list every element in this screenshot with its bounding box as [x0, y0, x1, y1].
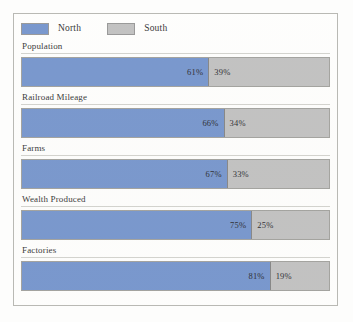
- bar-value-south: 33%: [233, 169, 249, 179]
- bar-segment-south: 34%: [225, 109, 329, 137]
- bar-value-south: 25%: [257, 220, 273, 230]
- bar-row: Population 61% 39%: [21, 40, 330, 87]
- chart-container: North South Population 61% 39% Railroad …: [13, 13, 338, 306]
- bar-value-south: 39%: [214, 67, 230, 77]
- bar-track: 61% 39%: [21, 57, 330, 87]
- bar-track: 67% 33%: [21, 159, 330, 189]
- legend-swatch-south: [107, 23, 135, 35]
- bar-segment-south: 39%: [209, 58, 329, 86]
- bar-row: Farms 67% 33%: [21, 142, 330, 189]
- bar-segment-south: 25%: [252, 211, 329, 239]
- bar-track: 75% 25%: [21, 210, 330, 240]
- bar-row-label: Wealth Produced: [21, 193, 330, 207]
- bar-value-north: 61%: [187, 67, 203, 77]
- legend-label-south: South: [144, 24, 167, 34]
- bar-value-north: 75%: [230, 220, 246, 230]
- bar-row-label: Railroad Mileage: [21, 91, 330, 105]
- bar-value-north: 67%: [206, 169, 222, 179]
- legend-swatch-north: [21, 23, 49, 35]
- bar-segment-south: 19%: [271, 262, 329, 290]
- bar-segment-north: 66%: [22, 109, 225, 137]
- legend-item-north: North: [21, 23, 81, 35]
- bar-segment-south: 33%: [228, 160, 329, 188]
- bar-row: Railroad Mileage 66% 34%: [21, 91, 330, 138]
- bar-value-south: 34%: [230, 118, 246, 128]
- bar-segment-north: 67%: [22, 160, 228, 188]
- bar-track: 66% 34%: [21, 108, 330, 138]
- bar-segment-north: 61%: [22, 58, 209, 86]
- bar-row: Wealth Produced 75% 25%: [21, 193, 330, 240]
- bar-value-north: 66%: [202, 118, 218, 128]
- bar-value-north: 81%: [248, 271, 264, 281]
- bar-track: 81% 19%: [21, 261, 330, 291]
- bar-segment-north: 75%: [22, 211, 252, 239]
- legend-label-north: North: [58, 24, 81, 34]
- chart-legend: North South: [14, 14, 337, 40]
- bar-value-south: 19%: [276, 271, 292, 281]
- legend-item-south: South: [107, 23, 167, 35]
- bar-segment-north: 81%: [22, 262, 271, 290]
- bar-row-label: Population: [21, 40, 330, 54]
- bar-row: Factories 81% 19%: [21, 244, 330, 291]
- bar-row-label: Factories: [21, 244, 330, 258]
- bar-row-label: Farms: [21, 142, 330, 156]
- chart-rows: Population 61% 39% Railroad Mileage 66% …: [14, 40, 337, 291]
